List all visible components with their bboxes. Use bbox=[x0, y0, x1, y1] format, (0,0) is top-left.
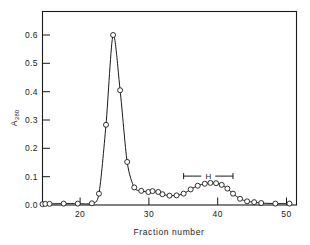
data-point bbox=[208, 180, 213, 185]
y-tick-label: 0.0 bbox=[25, 200, 38, 210]
data-point bbox=[132, 185, 137, 190]
data-curve bbox=[43, 35, 290, 205]
y-axis-title-subscript: 280 bbox=[14, 110, 20, 120]
data-point bbox=[96, 191, 101, 196]
data-point bbox=[167, 193, 172, 198]
data-point bbox=[287, 201, 292, 206]
data-point bbox=[47, 201, 52, 206]
data-point bbox=[225, 186, 230, 191]
y-axis-tick-labels: 0.0 0.1 0.2 0.3 0.4 0.5 0.6 bbox=[25, 30, 38, 210]
y-tick-label: 0.4 bbox=[25, 87, 38, 97]
data-point bbox=[181, 191, 186, 196]
data-point bbox=[89, 201, 94, 206]
data-point bbox=[188, 187, 193, 192]
x-axis-tick-labels: 20 30 40 50 bbox=[75, 209, 292, 219]
data-point bbox=[118, 88, 123, 93]
data-point bbox=[160, 192, 165, 197]
data-point bbox=[214, 181, 219, 186]
data-point bbox=[61, 201, 66, 206]
data-point bbox=[104, 122, 109, 127]
x-tick-label: 50 bbox=[281, 209, 291, 219]
data-point bbox=[139, 188, 144, 193]
plot-frame bbox=[43, 12, 297, 206]
data-point bbox=[252, 200, 257, 205]
svg-text:A280: A280 bbox=[9, 110, 20, 127]
x-tick-label: 30 bbox=[144, 209, 154, 219]
x-tick-label: 40 bbox=[213, 209, 223, 219]
data-point bbox=[245, 199, 250, 204]
data-point bbox=[231, 191, 236, 196]
y-axis-ticks bbox=[43, 35, 51, 205]
data-point bbox=[125, 159, 130, 164]
x-axis-title: Fraction number bbox=[134, 227, 205, 237]
range-bracket-h: H bbox=[184, 172, 233, 181]
data-point bbox=[174, 193, 179, 198]
y-axis-title: A280 bbox=[9, 110, 20, 127]
data-point bbox=[202, 181, 207, 186]
data-point bbox=[259, 201, 264, 206]
data-point-markers bbox=[40, 33, 292, 207]
y-tick-label: 0.6 bbox=[25, 30, 38, 40]
y-tick-label: 0.3 bbox=[25, 115, 38, 125]
y-tick-label: 0.2 bbox=[25, 143, 38, 153]
range-bracket-label: H bbox=[205, 172, 211, 181]
elution-profile-chart: 0.0 0.1 0.2 0.3 0.4 0.5 0.6 20 30 40 50 … bbox=[0, 0, 310, 245]
data-point bbox=[219, 182, 224, 187]
data-point bbox=[273, 201, 278, 206]
data-point bbox=[238, 196, 243, 201]
y-tick-label: 0.5 bbox=[25, 58, 38, 68]
data-point bbox=[150, 189, 155, 194]
data-point bbox=[195, 183, 200, 188]
x-tick-label: 20 bbox=[75, 209, 85, 219]
y-tick-label: 0.1 bbox=[25, 172, 38, 182]
data-point bbox=[75, 201, 80, 206]
chromatography-figure: 0.0 0.1 0.2 0.3 0.4 0.5 0.6 20 30 40 50 … bbox=[0, 0, 310, 245]
data-point bbox=[111, 33, 116, 38]
